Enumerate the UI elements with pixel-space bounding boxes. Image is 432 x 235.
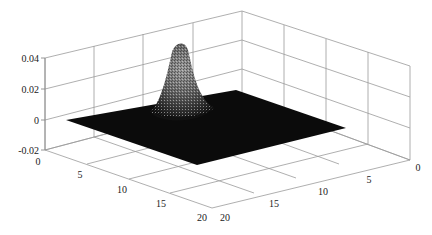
y-tick-label: 5 bbox=[367, 174, 372, 185]
z-tick-label: 0 bbox=[34, 115, 39, 126]
surface-plot: 0.04 0.02 0 -0.02 0 5 10 15 20 0 5 10 15… bbox=[0, 0, 432, 235]
plot-canvas: 0.04 0.02 0 -0.02 0 5 10 15 20 0 5 10 15… bbox=[0, 0, 432, 235]
y-tick-label: 10 bbox=[318, 186, 328, 197]
z-tick-label: 0.04 bbox=[22, 53, 40, 64]
y-axis: 0 5 10 15 20 bbox=[220, 162, 421, 223]
x-tick-label: 5 bbox=[78, 169, 83, 180]
z-axis: 0.04 0.02 0 -0.02 bbox=[18, 53, 45, 156]
x-tick-label: 15 bbox=[156, 198, 166, 209]
surface-mesh bbox=[66, 43, 346, 165]
y-tick-label: 20 bbox=[220, 212, 230, 223]
x-tick-label: 20 bbox=[197, 212, 207, 223]
x-tick-label: 10 bbox=[117, 184, 127, 195]
z-tick-label: -0.02 bbox=[18, 145, 39, 156]
y-tick-label: 0 bbox=[416, 162, 421, 173]
z-tick-label: 0.02 bbox=[22, 84, 40, 95]
x-tick-label: 0 bbox=[36, 156, 41, 167]
y-tick-label: 15 bbox=[269, 198, 279, 209]
